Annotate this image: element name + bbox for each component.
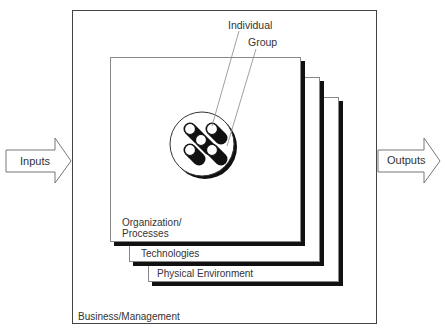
core-group-layer — [0, 0, 445, 330]
group-label: Group — [248, 37, 277, 48]
individual-leader-line — [212, 31, 239, 126]
group-leader-line — [227, 49, 256, 146]
individual-label: Individual — [228, 20, 272, 31]
